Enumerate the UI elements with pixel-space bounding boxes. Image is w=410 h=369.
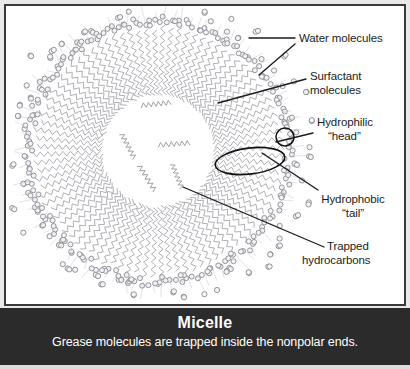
label-water-molecules: Water molecules [299, 32, 383, 46]
label-surfactant-molecules: Surfactantmolecules [310, 70, 361, 97]
label-hydrophobic-tail-line2: “tail” [342, 207, 364, 219]
label-hydrophilic-head-line1: Hydrophilic [317, 116, 373, 128]
label-surfactant-molecules-line2: molecules [310, 84, 361, 96]
label-hydrophilic-head-line2: “head” [328, 130, 373, 144]
trapped-hydrocarbons-group [119, 100, 190, 192]
micelle-figure: Water molecules Surfactantmolecules Hydr… [0, 0, 410, 369]
caption-band: Micelle Grease molecules are trapped ins… [0, 308, 410, 369]
figure-bottom-edge [0, 365, 410, 369]
water-molecules-group [10, 9, 315, 300]
caption-title: Micelle [0, 314, 410, 332]
label-surfactant-molecules-line1: Surfactant [310, 70, 361, 82]
label-hydrophilic-head: Hydrophilic“head” [317, 116, 373, 143]
label-trapped-hydrocarbons: Trappedhydrocarbons [327, 240, 370, 267]
label-trapped-hydrocarbons-line2: hydrocarbons [302, 254, 370, 268]
caption-subtitle: Grease molecules are trapped inside the … [0, 335, 410, 349]
diagram-panel: Water molecules Surfactantmolecules Hydr… [4, 4, 406, 306]
label-hydrophobic-tail: Hydrophobic“tail” [313, 193, 393, 220]
label-water-molecules-line1: Water molecules [299, 32, 383, 44]
label-hydrophobic-tail-line1: Hydrophobic [321, 193, 384, 205]
label-trapped-hydrocarbons-line1: Trapped [327, 240, 369, 252]
